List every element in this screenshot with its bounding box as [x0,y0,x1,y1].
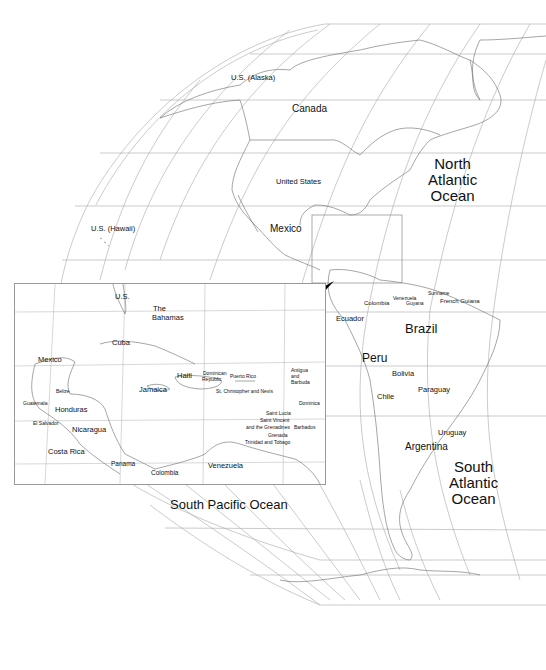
inset-label-saint-vincent-2: and the Grenadines [246,425,290,430]
inset-label-costa-rica: Costa Rica [48,448,85,456]
inset-label-cuba: Cuba [112,339,130,347]
inset-label-venezuela: Venezuela [208,462,243,470]
inset-label-honduras: Honduras [55,406,88,414]
inset-label-antigua-3: Barbuda [291,380,310,385]
label-suriname: Suriname [428,291,449,296]
label-mexico: Mexico [270,224,302,235]
inset-label-dominica: Dominica [299,401,320,406]
inset-label-puerto-rico: Puerto Rico [230,374,256,379]
inset-label-el-salvador: El Salvador [33,421,59,426]
inset-label-haiti: Haiti [177,372,192,380]
label-uruguay: Uruguay [438,429,466,437]
label-argentina: Argentina [405,442,448,453]
label-south-pacific-ocean: South Pacific Ocean [170,498,288,512]
label-south-atlantic-ocean: South Atlantic Ocean [449,459,498,506]
inset-label-bahamas-2: Bahamas [152,314,184,322]
inset-label-grenada: Grenada [268,433,287,438]
label-guyana: Guyana [406,301,424,306]
label-peru: Peru [362,352,387,365]
inset-label-nicaragua: Nicaragua [72,426,106,434]
inset-label-saint-lucia: Saint Lucia [266,411,291,416]
label-bolivia: Bolivia [392,370,414,378]
label-colombia: Colombia [364,300,389,306]
label-north-atlantic-ocean: North Atlantic Ocean [428,156,477,203]
inset-label-saint-vincent-1: Saint Vincent [260,418,289,423]
label-ecuador: Ecuador [336,315,364,323]
world-map: U.S. (Alaska) Canada United States U.S. … [0,0,546,670]
inset-label-colombia: Colombia [151,470,178,477]
label-brazil: Brazil [405,322,438,336]
inset-label-trinidad: Trinidad and Tobago [245,440,290,445]
inset-label-guatemala: Guatemala [23,401,47,406]
inset-label-dominican-2: Republic [202,377,221,382]
inset-label-bahamas-1: The [153,305,166,313]
inset-label-barbados: Barbados [294,425,315,430]
label-hawaii: U.S. (Hawaii) [91,225,135,233]
label-alaska: U.S. (Alaska) [231,74,275,82]
inset-label-us: U.S. [115,293,130,301]
label-french-guiana: French Guiana [440,298,480,304]
label-united-states: United States [276,178,321,186]
inset-label-belize: Belize [56,389,70,394]
inset-label-jamaica: Jamaica [139,386,167,394]
inset-label-panama: Panama [111,461,135,468]
inset-label-mexico: Mexico [38,356,62,364]
caribbean-inset-map: U.S. The Bahamas Cuba Mexico Haiti Domin… [14,283,326,485]
label-canada: Canada [292,104,327,115]
label-chile: Chile [377,393,394,401]
label-paraguay: Paraguay [418,386,450,394]
inset-label-st-kitts: St. Christopher and Nevis [216,389,273,394]
